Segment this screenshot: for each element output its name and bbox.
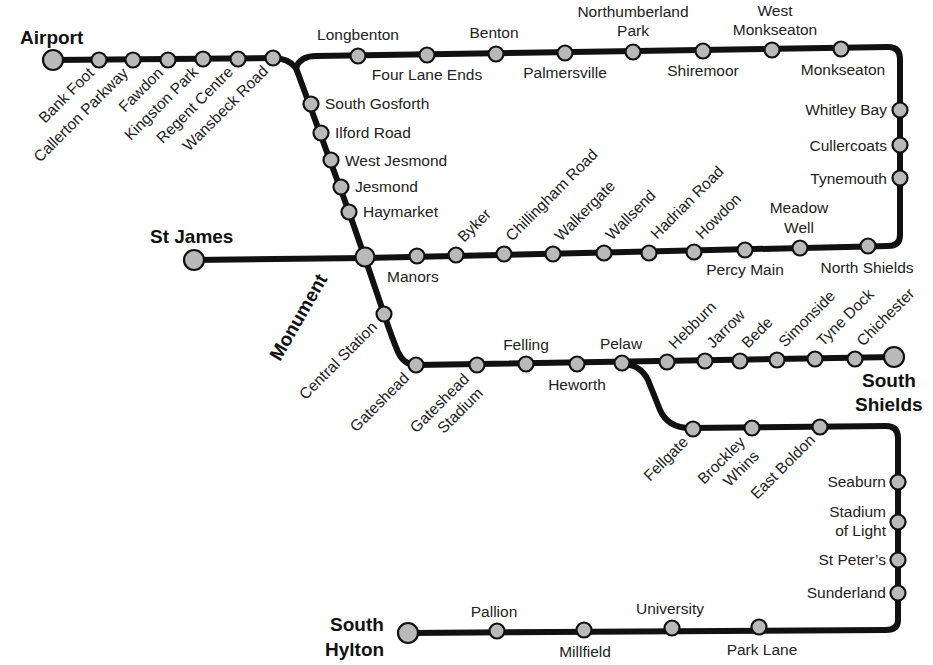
station-callerton-parkway[interactable] xyxy=(126,53,141,68)
station-fellgate[interactable] xyxy=(686,422,701,437)
station-kingston-park[interactable] xyxy=(196,52,211,67)
station-sunderland[interactable] xyxy=(891,586,906,601)
station-felling[interactable] xyxy=(519,357,534,372)
metro-map: Airport St James Monument South Shields … xyxy=(0,0,933,665)
label-heworth: Heworth xyxy=(548,376,606,393)
station-byker[interactable] xyxy=(449,248,464,263)
label-west-monkseaton-1: West xyxy=(757,2,793,19)
station-wallsend[interactable] xyxy=(597,246,612,261)
station-haymarket[interactable] xyxy=(342,205,357,220)
station-north-shields[interactable] xyxy=(861,239,876,254)
label-chillingham-road: Chillingham Road xyxy=(502,146,601,245)
station-percy-main[interactable] xyxy=(738,243,753,258)
station-seaburn[interactable] xyxy=(891,475,906,490)
label-north-shields: North Shields xyxy=(820,259,913,276)
tracks xyxy=(53,47,900,633)
label-pallion: Pallion xyxy=(471,603,518,620)
label-west-monkseaton-2: Monkseaton xyxy=(733,21,817,38)
station-chillingham-road[interactable] xyxy=(497,247,512,262)
label-palmersville: Palmersville xyxy=(523,64,607,81)
station-stadium-of-light[interactable] xyxy=(891,515,906,530)
station-chichester[interactable] xyxy=(848,352,863,367)
station-benton[interactable] xyxy=(489,47,504,62)
station-south-hylton[interactable] xyxy=(398,623,418,643)
label-shiremoor: Shiremoor xyxy=(667,62,739,79)
station-jarrow[interactable] xyxy=(698,354,713,369)
label-park-lane: Park Lane xyxy=(727,641,798,658)
label-st-peters: St Peter’s xyxy=(819,551,887,568)
station-airport[interactable] xyxy=(43,50,63,70)
label-gateshead: Gateshead xyxy=(346,369,412,435)
label-stadium-of-light-2: of Light xyxy=(835,522,887,539)
station-jesmond[interactable] xyxy=(334,180,349,195)
label-meadow-well-1: Meadow xyxy=(770,199,829,216)
station-south-gosforth[interactable] xyxy=(304,97,319,112)
label-airport: Airport xyxy=(20,27,84,48)
station-tyne-dock[interactable] xyxy=(808,352,823,367)
label-millfield: Millfield xyxy=(559,643,611,660)
label-university: University xyxy=(636,600,704,617)
label-central-station: Central Station xyxy=(296,318,381,403)
label-south-gosforth: South Gosforth xyxy=(325,95,429,112)
label-west-jesmond: West Jesmond xyxy=(345,152,447,169)
label-northumberland-park-1: Northumberland xyxy=(577,3,688,20)
station-wansbeck-road[interactable] xyxy=(266,51,281,66)
label-south-hylton-1: South xyxy=(330,614,384,635)
station-shiremoor[interactable] xyxy=(696,44,711,59)
station-central-station[interactable] xyxy=(377,307,392,322)
station-bank-foot[interactable] xyxy=(92,53,107,68)
station-monument[interactable] xyxy=(356,248,375,267)
label-monument: Monument xyxy=(265,270,332,364)
label-northumberland-park-2: Park xyxy=(617,22,649,39)
station-bede[interactable] xyxy=(733,354,748,369)
station-hadrian-road[interactable] xyxy=(642,246,657,261)
station-four-lane-ends[interactable] xyxy=(420,48,435,63)
label-south-shields-1: South xyxy=(862,370,916,391)
label-south-hylton-2: Hylton xyxy=(325,639,384,660)
station-fawdon[interactable] xyxy=(161,53,176,68)
station-hebburn[interactable] xyxy=(660,355,675,370)
station-university[interactable] xyxy=(665,621,680,636)
station-cullercoats[interactable] xyxy=(893,138,908,153)
station-st-peters[interactable] xyxy=(891,553,906,568)
station-palmersville[interactable] xyxy=(558,46,573,61)
station-simonside[interactable] xyxy=(770,353,785,368)
station-ilford-road[interactable] xyxy=(314,126,329,141)
station-whitley-bay[interactable] xyxy=(893,103,908,118)
label-four-lane-ends: Four Lane Ends xyxy=(372,66,483,83)
label-felling: Felling xyxy=(503,336,549,353)
station-regent-centre[interactable] xyxy=(231,52,246,67)
station-walkergate[interactable] xyxy=(546,247,561,262)
station-longbenton[interactable] xyxy=(351,49,366,64)
station-heworth[interactable] xyxy=(570,357,585,372)
station-howdon[interactable] xyxy=(687,245,702,260)
station-meadow-well[interactable] xyxy=(793,241,808,256)
station-tynemouth[interactable] xyxy=(893,171,908,186)
label-st-james: St James xyxy=(150,226,233,247)
label-whitley-bay: Whitley Bay xyxy=(805,101,887,118)
station-st-james[interactable] xyxy=(184,250,204,270)
label-manors: Manors xyxy=(387,268,439,285)
station-west-monkseaton[interactable] xyxy=(765,43,780,58)
label-monkseaton: Monkseaton xyxy=(801,61,885,78)
label-haymarket: Haymarket xyxy=(363,203,439,220)
label-cullercoats: Cullercoats xyxy=(809,137,887,154)
station-gateshead[interactable] xyxy=(409,358,424,373)
station-pallion[interactable] xyxy=(490,624,505,639)
label-tynemouth: Tynemouth xyxy=(810,170,887,187)
station-pelaw[interactable] xyxy=(615,356,630,371)
station-park-lane[interactable] xyxy=(752,620,767,635)
station-millfield[interactable] xyxy=(577,623,592,638)
label-stadium-of-light-1: Stadium xyxy=(829,503,886,520)
station-northumberland-park[interactable] xyxy=(626,45,641,60)
station-brockley-whins[interactable] xyxy=(745,421,760,436)
station-gateshead-stadium[interactable] xyxy=(470,358,485,373)
station-west-jesmond[interactable] xyxy=(324,153,339,168)
label-seaburn: Seaburn xyxy=(827,473,886,490)
label-ilford-road: Ilford Road xyxy=(335,124,411,141)
labels: Airport St James Monument South Shields … xyxy=(20,2,923,660)
station-south-shields[interactable] xyxy=(884,347,904,367)
station-east-boldon[interactable] xyxy=(813,420,828,435)
station-monkseaton[interactable] xyxy=(834,42,849,57)
station-manors[interactable] xyxy=(410,249,425,264)
